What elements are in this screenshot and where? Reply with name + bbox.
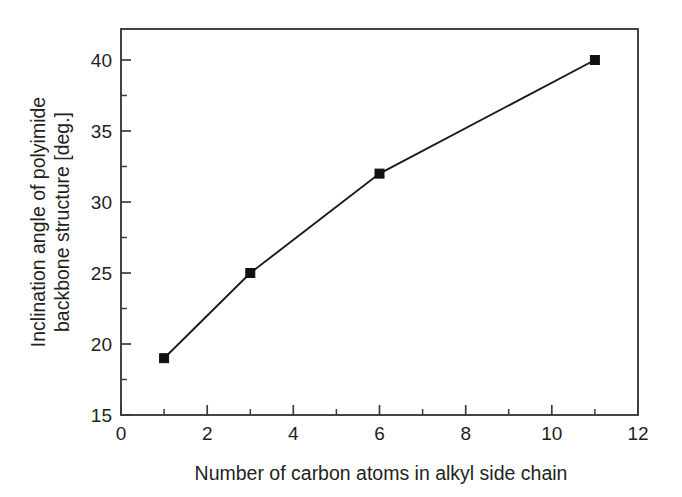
x-tick-label-6: 6: [374, 423, 385, 444]
data-point-marker-4[interactable]: [590, 56, 599, 65]
x-tick-label-0: 0: [116, 423, 127, 444]
x-axis-major-ticks: [121, 405, 638, 415]
x-tick-labels: 0 2 4 6 8 10 12: [116, 423, 649, 444]
data-point-marker-1[interactable]: [160, 354, 169, 363]
data-point-marker-3[interactable]: [375, 169, 384, 178]
y-tick-labels: 15 20 25 30 35 40: [91, 50, 112, 426]
chart-figure: 0 2 4 6 8 10 12 15 20 25 30 35 40 Num: [0, 0, 682, 497]
series-line-inclination-angle: [164, 60, 595, 358]
y-tick-label-30: 30: [91, 192, 112, 213]
y-tick-label-25: 25: [91, 263, 112, 284]
y-axis-title-line-1: Inclination angle of polyimide: [27, 97, 49, 347]
x-tick-label-2: 2: [202, 423, 213, 444]
y-tick-label-15: 15: [91, 405, 112, 426]
y-tick-label-40: 40: [91, 50, 112, 71]
x-tick-label-12: 12: [627, 423, 648, 444]
x-tick-label-4: 4: [288, 423, 299, 444]
y-tick-label-35: 35: [91, 121, 112, 142]
x-tick-label-10: 10: [541, 423, 562, 444]
plot-frame: [121, 29, 638, 415]
line-chart: 0 2 4 6 8 10 12 15 20 25 30 35 40 Num: [0, 0, 682, 497]
y-axis-title: Inclination angle of polyimide backbone …: [27, 97, 73, 347]
y-axis-title-line-2: backbone structure [deg.]: [51, 112, 73, 332]
x-tick-label-8: 8: [460, 423, 471, 444]
series-markers: [160, 56, 600, 363]
y-tick-label-20: 20: [91, 334, 112, 355]
data-point-marker-2[interactable]: [246, 269, 255, 278]
x-axis-title: Number of carbon atoms in alkyl side cha…: [195, 462, 568, 484]
